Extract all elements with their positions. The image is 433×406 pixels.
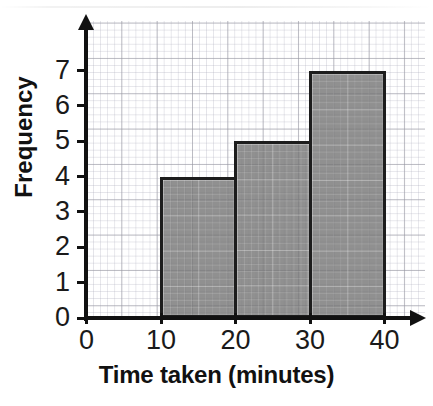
- y-axis-title: Frequency: [10, 57, 38, 217]
- y-tick-label-5: 5: [48, 127, 70, 154]
- x-tick-20: [234, 313, 237, 324]
- y-tick-label-2: 2: [48, 233, 70, 260]
- y-tick-label-4: 4: [48, 163, 70, 190]
- x-tick-label-20: 20: [206, 327, 266, 354]
- x-tick-label-10: 10: [131, 327, 191, 354]
- x-tick-label-0: 0: [57, 327, 117, 354]
- y-tick-3: [77, 210, 87, 213]
- arrow-right-icon: [410, 310, 426, 326]
- y-tick-1: [77, 281, 87, 284]
- y-tick-7: [77, 69, 87, 72]
- x-axis-title: Time taken (minutes): [0, 361, 433, 389]
- bar-30-40: [309, 71, 387, 318]
- x-axis-line: [84, 316, 414, 320]
- bar-10-20: [160, 177, 238, 318]
- y-tick-4: [77, 175, 87, 178]
- histogram-chart: 01234567 010203040 Time taken (minutes) …: [0, 0, 433, 406]
- x-tick-10: [160, 313, 163, 324]
- x-tick-40: [383, 313, 386, 324]
- x-tick-30: [309, 313, 312, 324]
- y-tick-2: [77, 246, 87, 249]
- y-tick-label-1: 1: [48, 269, 70, 296]
- y-tick-label-3: 3: [48, 198, 70, 225]
- bar-20-30: [234, 141, 312, 318]
- y-tick-label-6: 6: [48, 92, 70, 119]
- y-tick-5: [77, 140, 87, 143]
- x-tick-label-40: 40: [355, 327, 415, 354]
- y-tick-6: [77, 104, 87, 107]
- x-tick-0: [85, 313, 88, 324]
- arrow-up-icon: [78, 14, 94, 30]
- x-tick-label-30: 30: [280, 327, 340, 354]
- y-tick-label-7: 7: [48, 57, 70, 84]
